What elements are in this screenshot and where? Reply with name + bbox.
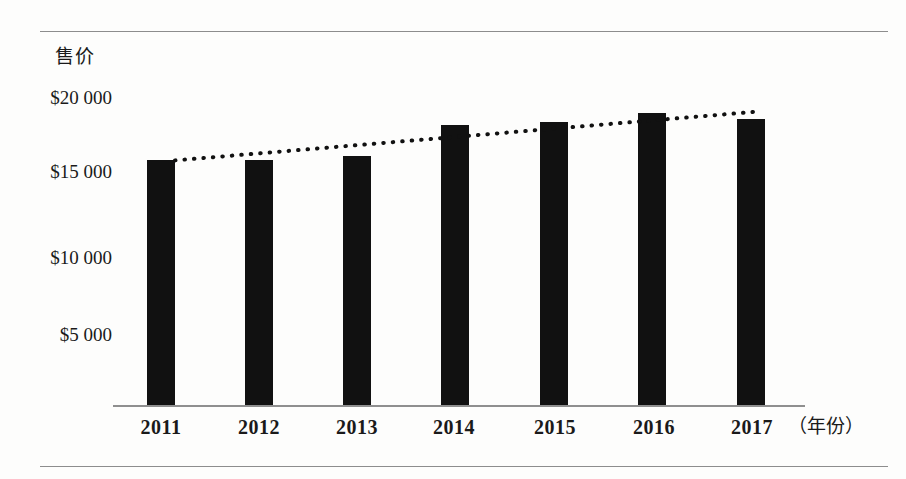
plot-area	[0, 0, 906, 479]
x-tick-label-2011: 2011	[121, 415, 201, 439]
bar-2013	[343, 156, 371, 405]
x-tick-label-2017: 2017	[712, 415, 792, 439]
x-axis-unit-label: （年份）	[788, 415, 864, 439]
bar-chart: 售价 $20 000 $15 000 $10 000 $5 000 2011 2…	[0, 0, 906, 479]
bar-2017	[737, 119, 765, 405]
x-tick-label-2012: 2012	[219, 415, 299, 439]
bar-2011	[147, 160, 175, 405]
x-axis-baseline	[113, 405, 805, 407]
bar-2015	[540, 122, 568, 405]
x-tick-label-2013: 2013	[317, 415, 397, 439]
bar-2012	[245, 160, 273, 405]
bar-2016	[638, 113, 666, 405]
x-tick-label-2015: 2015	[515, 415, 595, 439]
bar-2014	[441, 125, 469, 405]
x-tick-label-2014: 2014	[414, 415, 494, 439]
x-tick-label-2016: 2016	[614, 415, 694, 439]
